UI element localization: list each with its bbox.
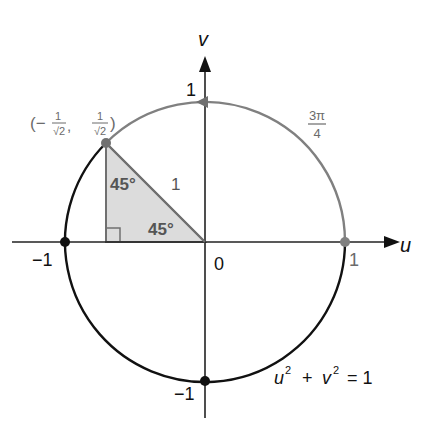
svg-text:1: 1 (55, 110, 61, 122)
v-axis-label: v (198, 28, 209, 50)
point-neg1-0 (60, 237, 70, 247)
svg-text:,: , (67, 117, 71, 134)
u-axis-arrow-icon (384, 236, 400, 248)
direction-arrow-icon (196, 96, 208, 108)
svg-text:√2: √2 (53, 125, 65, 137)
svg-text:2: 2 (285, 364, 291, 376)
angle-bottom-label: 45° (148, 220, 174, 239)
hypotenuse-label: 1 (171, 175, 180, 194)
svg-text:4: 4 (313, 126, 320, 141)
angle-label: 3π 4 (308, 108, 326, 141)
unit-circle-diagram: u v 0 1 −1 1 −1 (− 1 √2 , 1 √2 ) 3π 4 45… (0, 0, 434, 437)
circle-equation: u 2 + v 2 = 1 (274, 364, 373, 388)
svg-text:2: 2 (333, 364, 339, 376)
v-axis-arrow-icon (199, 56, 211, 72)
v-neg-tick-label: −1 (174, 384, 195, 404)
svg-text:+: + (302, 368, 313, 388)
svg-text:√2: √2 (94, 125, 106, 137)
svg-text:(−: (− (30, 114, 46, 133)
origin-label: 0 (214, 254, 224, 274)
svg-text:3π: 3π (309, 108, 325, 123)
v-pos-tick-label: 1 (186, 80, 196, 100)
u-neg-tick-label: −1 (32, 250, 53, 270)
point-1-0 (340, 237, 350, 247)
u-axis-label: u (400, 234, 411, 256)
svg-text:v: v (322, 368, 332, 388)
svg-text:1: 1 (97, 110, 103, 122)
point-3pi4 (101, 138, 111, 148)
angle-top-label: 45° (110, 175, 136, 194)
u-pos-tick-label: 1 (349, 250, 359, 270)
svg-text:u: u (274, 368, 284, 388)
point-0-neg1 (200, 376, 210, 386)
svg-text:): ) (110, 114, 116, 133)
point-coordinate-label: (− 1 √2 , 1 √2 ) (30, 110, 116, 137)
svg-text:= 1: = 1 (347, 368, 373, 388)
